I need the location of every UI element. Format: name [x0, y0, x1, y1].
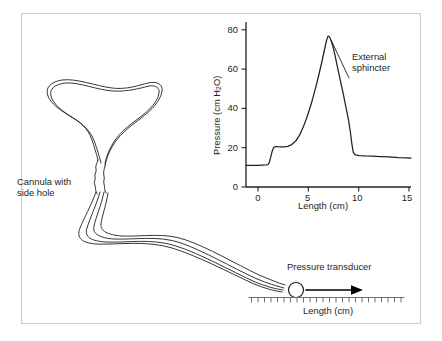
ruler-axis-label: Length (cm) [303, 305, 353, 316]
sphincter-label-line1: External [352, 51, 386, 62]
chart-x-tick-label: 10 [337, 192, 377, 203]
sphincter-label-line2: sphincter [352, 62, 390, 73]
y-axis-label-suffix: O) [211, 76, 222, 86]
chart-x-tick-label: 0 [238, 192, 278, 203]
pressure-transducer-label: Pressure transducer [287, 261, 371, 272]
chart-x-ticks [258, 187, 409, 192]
chart-y-tick-label: 0 [0, 181, 238, 192]
chart-y-ticks [242, 30, 247, 187]
chart-x-tick-label: 15 [387, 192, 427, 203]
chart-y-tick-label: 20 [0, 142, 238, 153]
figure-root: Cannula withside hole Pressure transduce… [0, 0, 442, 341]
external-sphincter-annotation: Externalsphincter [352, 51, 390, 73]
y-axis-label-subscript: 2 [215, 86, 222, 90]
chart-x-tick-label: 5 [288, 192, 328, 203]
chart-y-tick-label: 40 [0, 102, 238, 113]
chart-y-tick-label: 60 [0, 63, 238, 74]
chart-y-tick-label: 80 [0, 24, 238, 35]
